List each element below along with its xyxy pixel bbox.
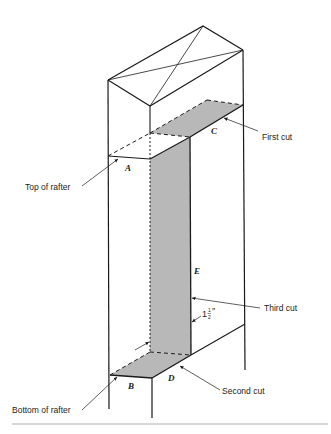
point-label-a: A <box>124 163 131 173</box>
svg-text:″: ″ <box>212 306 216 316</box>
point-label-b: B <box>127 381 134 391</box>
top-of-rafter-label: Top of rafter <box>25 182 71 192</box>
first-cut-arrow <box>224 118 258 131</box>
dimension-arrow <box>192 316 201 322</box>
svg-text:1: 1 <box>202 309 207 319</box>
rafter-cut-diagram: C A E B D First cut Top of rafter Third … <box>0 0 331 434</box>
third-cut-face <box>150 137 191 355</box>
second-cut-label: Second cut <box>222 386 265 396</box>
small-arrow <box>135 342 149 350</box>
first-cut-label: First cut <box>262 132 293 142</box>
svg-text:2: 2 <box>208 314 211 320</box>
svg-text:1: 1 <box>208 307 211 313</box>
first-cut-face <box>150 100 243 137</box>
top-of-rafter-arrow <box>82 159 118 186</box>
point-label-e: E <box>193 266 200 276</box>
bottom-of-rafter-label: Bottom of rafter <box>12 405 71 415</box>
point-label-c: C <box>211 126 218 136</box>
bottom-of-rafter-arrow <box>82 377 117 410</box>
dimension-label: 1 1 2 ″ <box>202 306 216 320</box>
third-cut-arrow <box>192 298 260 308</box>
point-label-d: D <box>167 373 175 383</box>
second-cut-face <box>110 352 191 378</box>
third-cut-label: Third cut <box>264 303 298 313</box>
second-cut-arrow <box>180 366 220 390</box>
